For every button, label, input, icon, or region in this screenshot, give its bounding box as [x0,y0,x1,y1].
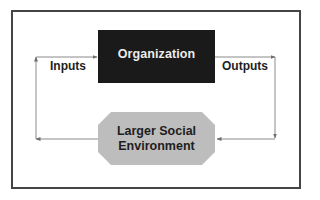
inputs-label: Inputs [50,59,86,73]
organization-node: Organization [98,30,215,83]
outputs-label: Outputs [222,59,268,73]
environment-label-line2: Environment [118,139,194,153]
environment-label: Larger Social Environment [117,124,196,153]
organization-label: Organization [118,47,196,61]
environment-node: Larger Social Environment [98,112,215,165]
environment-label-line1: Larger Social [117,124,196,138]
